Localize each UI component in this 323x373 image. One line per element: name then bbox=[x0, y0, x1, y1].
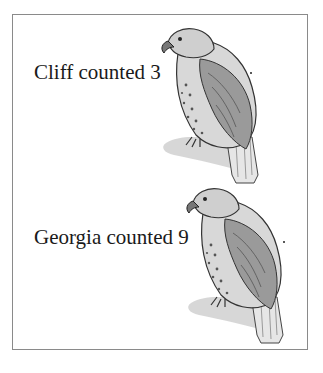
hawk-illustration bbox=[156, 25, 266, 185]
trailing-dot bbox=[250, 72, 252, 74]
count-label: Georgia counted 9 bbox=[34, 227, 189, 248]
row-georgia: Georgia counted 9 bbox=[13, 185, 307, 351]
count-label: Cliff counted 3 bbox=[34, 62, 161, 83]
row-cliff: Cliff counted 3 bbox=[13, 15, 307, 185]
trailing-dot bbox=[283, 241, 285, 243]
hawk-illustration bbox=[181, 185, 291, 345]
card-frame: Cliff counted 3 Georgia counted 9 bbox=[12, 14, 308, 350]
